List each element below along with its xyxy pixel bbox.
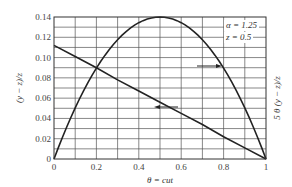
svg-text:0.02: 0.02 [35,134,51,144]
svg-text:5 θ (y − z)/z: 5 θ (y − z)/z [272,76,282,120]
svg-text:0.2: 0.2 [91,162,102,172]
annotation-alpha: α = 1.25 [224,20,259,31]
svg-text:0.4: 0.4 [133,162,145,172]
svg-text:0.14: 0.14 [35,12,51,22]
svg-text:0.6: 0.6 [176,162,188,172]
svg-text:0.12: 0.12 [35,32,51,42]
svg-text:0.06: 0.06 [35,93,51,103]
svg-text:0: 0 [47,154,52,164]
annotation-z: z = 0.5 [224,32,253,43]
svg-text:0.08: 0.08 [35,73,51,83]
svg-text:(y − z)/z: (y − z)/z [14,72,24,103]
svg-text:0.8: 0.8 [218,162,230,172]
svg-text:1: 1 [264,162,269,172]
svg-text:0.04: 0.04 [35,113,51,123]
svg-text:0: 0 [52,162,57,172]
svg-text:θ = cut: θ = cut [147,175,173,185]
svg-text:0.10: 0.10 [35,53,51,63]
